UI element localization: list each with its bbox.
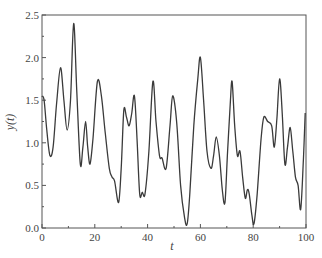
plot-frame: [42, 15, 306, 228]
x-tick-label: 20: [89, 231, 101, 243]
x-tick-label: 40: [142, 231, 154, 243]
axis-ticks: [42, 15, 306, 228]
y-tick-label: 2.5: [25, 9, 39, 21]
y-tick-label: 0.0: [25, 222, 39, 234]
x-tick-label: 80: [248, 231, 260, 243]
y-tick-label: 1.5: [25, 94, 39, 106]
x-tick-label: 60: [195, 231, 207, 243]
x-tick-label: 0: [39, 231, 45, 243]
x-tick-label: 100: [298, 231, 315, 243]
y-tick-label: 2.0: [25, 52, 39, 64]
line-chart: 0.00.51.01.52.02.5 020406080100 t y(t): [0, 0, 322, 258]
y-tick-labels: 0.00.51.01.52.02.5: [25, 9, 39, 234]
y-axis-label: y(t): [3, 114, 17, 132]
y-tick-label: 0.5: [25, 179, 39, 191]
x-axis-label: t: [170, 239, 174, 253]
data-series-line: [42, 23, 305, 225]
x-tick-labels: 020406080100: [39, 231, 315, 243]
y-tick-label: 1.0: [25, 137, 39, 149]
